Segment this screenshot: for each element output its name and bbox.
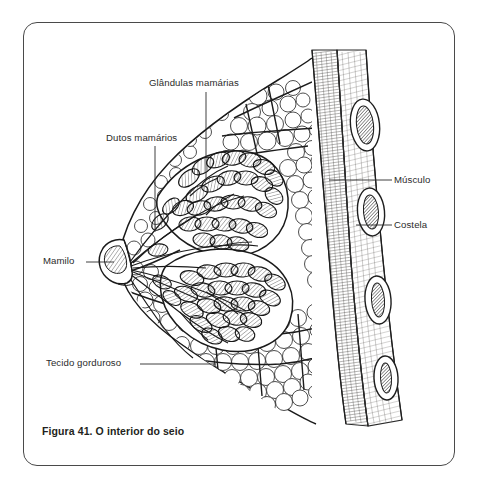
label-glandulas-mamarias: Glândulas mamárias (149, 77, 239, 88)
label-mamilo: Mamilo (43, 255, 75, 266)
label-costela: Costela (394, 219, 427, 230)
label-musculo: Músculo (394, 174, 430, 185)
label-dutos-mamarios: Dutos mamários (106, 132, 177, 143)
figure-page: Glândulas mamárias Dutos mamários Mamilo… (0, 0, 479, 490)
label-tecido-gorduroso: Tecido gorduroso (46, 357, 121, 368)
figure-caption: Figura 41. O interior do seio (42, 425, 184, 437)
breast-anatomy-illustration (0, 0, 479, 490)
